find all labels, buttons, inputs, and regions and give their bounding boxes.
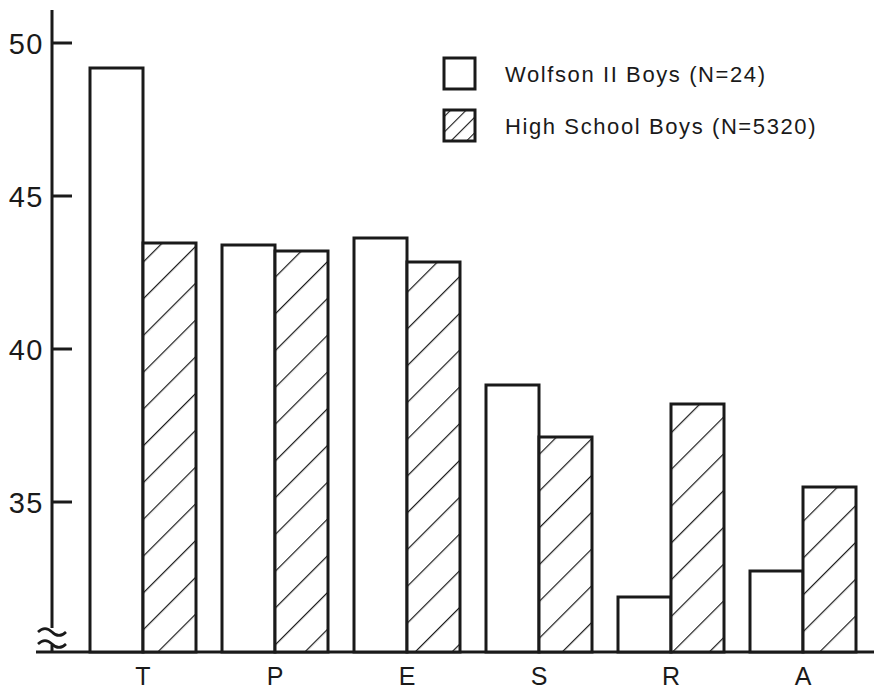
x-label-A: A [795, 662, 812, 690]
bar-E-highschool [407, 262, 460, 652]
bar-P-highschool [275, 251, 328, 652]
bar-A-highschool [803, 487, 856, 652]
bars-group [90, 68, 856, 652]
axis-break-icon [38, 629, 66, 648]
legend-label-highschool: High School Boys (N=5320) [505, 114, 817, 139]
y-tick-label-35: 35 [9, 487, 44, 519]
x-label-T: T [135, 662, 150, 690]
bar-E-wolfson [354, 238, 407, 652]
legend-swatch-highschool [444, 110, 475, 141]
bar-A-wolfson [750, 571, 803, 652]
bar-R-wolfson [618, 597, 671, 652]
chart-canvas: 50 45 40 35 T [0, 0, 878, 690]
bar-chart: 50 45 40 35 T [0, 0, 878, 690]
x-label-S: S [531, 662, 548, 690]
y-tick-labels: 50 45 40 35 [9, 28, 44, 519]
x-label-P: P [267, 662, 284, 690]
legend-swatch-wolfson [444, 58, 475, 89]
bar-R-highschool [671, 404, 724, 652]
x-label-E: E [399, 662, 416, 690]
legend-label-wolfson: Wolfson II Boys (N=24) [505, 62, 767, 87]
bar-S-highschool [539, 437, 592, 652]
y-tick-label-50: 50 [9, 28, 44, 60]
bar-P-wolfson [222, 245, 275, 652]
bar-T-highschool [143, 243, 196, 652]
x-category-labels: T P E S R A [135, 662, 811, 690]
legend: Wolfson II Boys (N=24) High School Boys … [444, 58, 817, 141]
y-tick-label-40: 40 [9, 334, 44, 366]
bar-T-wolfson [90, 68, 143, 652]
y-tick-label-45: 45 [9, 181, 44, 213]
bar-S-wolfson [486, 385, 539, 652]
x-label-R: R [662, 662, 680, 690]
